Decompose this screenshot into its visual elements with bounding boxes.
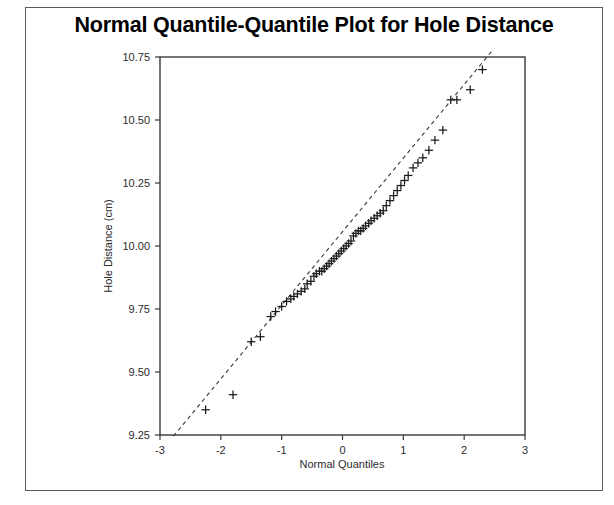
- data-points: [201, 65, 486, 414]
- y-tick-label: 10.75: [122, 51, 150, 63]
- data-point-marker: [466, 86, 474, 94]
- y-tick-label: 10.50: [122, 114, 150, 126]
- data-point-marker: [431, 136, 439, 144]
- data-point-marker: [414, 159, 422, 167]
- data-point-marker: [393, 186, 401, 194]
- data-point-marker: [478, 65, 486, 73]
- chart-page: Normal Quantile-Quantile Plot for Hole D…: [0, 0, 614, 505]
- x-tick-label: 2: [461, 444, 467, 456]
- chart-svg: -3-2-10123 9.259.509.7510.0010.2510.5010…: [0, 0, 614, 505]
- x-axis-ticks: [160, 435, 525, 440]
- data-point-marker: [409, 164, 417, 172]
- x-tick-label: 0: [339, 444, 345, 456]
- reference-line: [173, 51, 492, 437]
- data-point-marker: [277, 302, 285, 310]
- y-axis-title: Hole Distance (cm): [102, 199, 114, 293]
- y-axis-tick-labels: 9.259.509.7510.0010.2510.5010.75: [122, 51, 150, 441]
- data-point-marker: [386, 196, 394, 204]
- data-point-marker: [400, 176, 408, 184]
- y-tick-label: 9.25: [129, 429, 150, 441]
- data-point-marker: [425, 146, 433, 154]
- data-point-marker: [389, 191, 397, 199]
- x-tick-label: -2: [216, 444, 226, 456]
- data-point-marker: [419, 154, 427, 162]
- y-axis-ticks: [155, 57, 160, 435]
- data-point-marker: [439, 126, 447, 134]
- qq-plot: -3-2-10123 9.259.509.7510.0010.2510.5010…: [0, 0, 614, 505]
- y-tick-label: 10.00: [122, 240, 150, 252]
- x-axis-tick-labels: -3-2-10123: [155, 444, 528, 456]
- y-tick-label: 9.75: [129, 303, 150, 315]
- data-point-marker: [453, 96, 461, 104]
- data-point-marker: [404, 171, 412, 179]
- x-tick-label: -1: [277, 444, 287, 456]
- y-tick-label: 10.25: [122, 177, 150, 189]
- data-point-marker: [256, 333, 264, 341]
- data-point-marker: [201, 406, 209, 414]
- data-point-marker: [247, 338, 255, 346]
- x-tick-label: 3: [522, 444, 528, 456]
- x-axis-title: Normal Quantiles: [300, 458, 385, 470]
- data-point-marker: [229, 390, 237, 398]
- x-tick-label: 1: [400, 444, 406, 456]
- data-point-marker: [267, 312, 275, 320]
- data-point-marker: [397, 181, 405, 189]
- y-tick-label: 9.50: [129, 366, 150, 378]
- x-tick-label: -3: [155, 444, 165, 456]
